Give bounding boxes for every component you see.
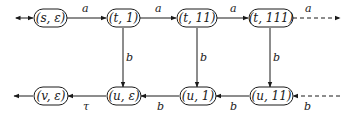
state-node-s-eps: (s, ε) (34, 9, 67, 27)
svg-text:(u, ε): (u, ε) (108, 89, 139, 103)
edge-label-a: a (155, 2, 162, 15)
svg-text:(t, 111): (t, 111) (249, 11, 294, 25)
edge-label-tau: τ (83, 100, 90, 113)
edge-label-b: b (230, 100, 237, 113)
state-diagram: a a a a b b b τ b b b (s, ε) (t, 1) (t, … (0, 0, 354, 115)
svg-text:(v, ε): (v, ε) (37, 89, 66, 103)
edge-label-b: b (200, 51, 207, 64)
edge-label-a: a (230, 2, 237, 15)
state-node-u-1: (u, 1) (180, 87, 216, 105)
state-node-t-111: (t, 111) (249, 9, 294, 27)
edge-label-b: b (273, 51, 280, 64)
edge-label-a: a (82, 2, 89, 15)
svg-text:(s, ε): (s, ε) (36, 11, 66, 25)
edge-label-b: b (157, 100, 164, 113)
svg-text:(u, 11): (u, 11) (252, 89, 292, 103)
edge-label-b: b (126, 51, 133, 64)
state-node-u-11: (u, 11) (250, 87, 293, 105)
svg-text:(t, 11): (t, 11) (178, 11, 215, 25)
edge-label-b: b (304, 100, 311, 113)
state-node-u-eps: (u, ε) (107, 87, 141, 105)
edge-label-a: a (305, 2, 312, 15)
state-node-t-11: (t, 11) (177, 9, 217, 27)
state-node-v-eps: (v, ε) (34, 87, 68, 105)
svg-text:(t, 1): (t, 1) (109, 11, 139, 25)
state-node-t-1: (t, 1) (107, 9, 140, 27)
svg-text:(u, 1): (u, 1) (182, 89, 215, 103)
